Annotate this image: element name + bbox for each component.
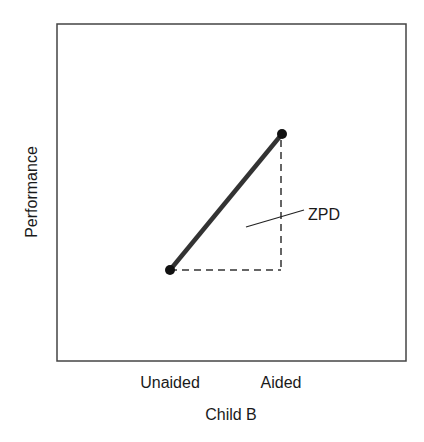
zpd-diagram: ZPD Unaided Aided Child B Performance xyxy=(0,0,424,442)
x-tick-unaided: Unaided xyxy=(140,374,200,391)
y-axis-label: Performance xyxy=(23,146,40,238)
unaided-point xyxy=(165,265,175,275)
zpd-label: ZPD xyxy=(308,206,340,223)
x-axis-label: Child B xyxy=(205,406,257,423)
aided-point xyxy=(277,129,287,139)
x-tick-aided: Aided xyxy=(261,374,302,391)
